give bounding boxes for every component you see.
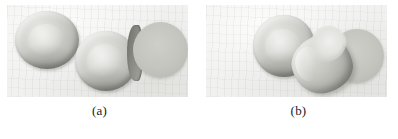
panel-b: (b) (199, 0, 398, 139)
panel-a: (a) (0, 0, 199, 139)
micrograph-b (206, 5, 387, 97)
figure-container: (a) (b) (0, 0, 398, 139)
panel-a-caption: (a) (0, 103, 199, 119)
normal-rbc-right (133, 22, 188, 78)
panel-b-caption: (b) (199, 103, 398, 119)
normal-rbc-left (15, 11, 79, 69)
micrograph-a (7, 5, 188, 97)
